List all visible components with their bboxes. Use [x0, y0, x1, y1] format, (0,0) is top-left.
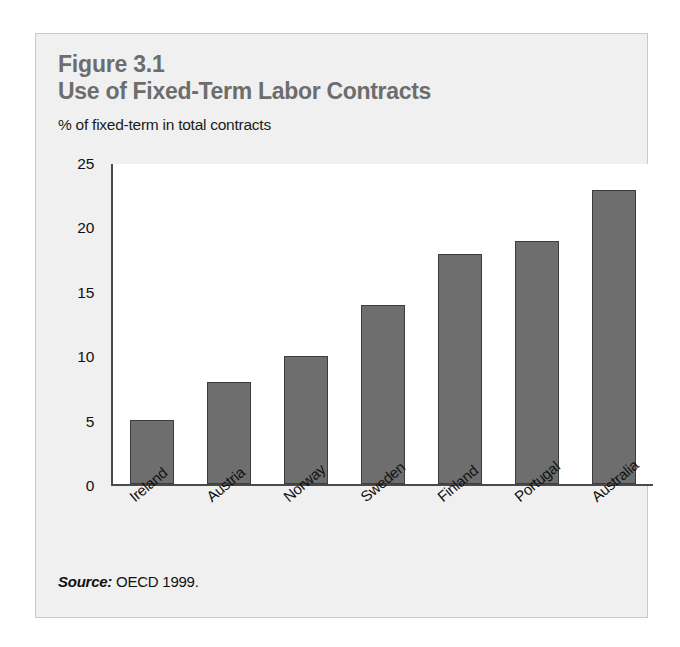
x-label-slot: Sweden [344, 488, 421, 558]
x-label-slot: Portugal [499, 488, 576, 558]
x-label-slot: Australia [576, 488, 653, 558]
figure-number: Figure 3.1 [58, 51, 618, 78]
figure-subtitle: % of fixed-term in total contracts [58, 116, 618, 134]
bar-slot [422, 164, 499, 484]
figure-header: Figure 3.1 Use of Fixed-Term Labor Contr… [58, 51, 618, 134]
x-axis: IrelandAustriaNorwaySwedenFinlandPortuga… [113, 488, 653, 558]
plot-area [111, 164, 653, 486]
source-note: Source: OECD 1999. [58, 573, 199, 590]
x-label-slot: Finland [422, 488, 499, 558]
bar-chart: 0510152025 IrelandAustriaNorwaySwedenFin… [58, 164, 628, 554]
bar-series [113, 164, 653, 484]
bar-slot [113, 164, 190, 484]
y-axis-tick-15: 15 [77, 284, 94, 302]
source-label: Source: [58, 573, 112, 590]
source-text: OECD 1999. [116, 573, 199, 590]
bar-slot [576, 164, 653, 484]
x-label-slot: Austria [190, 488, 267, 558]
bar-sweden [361, 305, 405, 484]
bar-slot [267, 164, 344, 484]
bar-australia [592, 190, 636, 484]
x-label-slot: Ireland [113, 488, 190, 558]
figure-title: Use of Fixed-Term Labor Contracts [58, 78, 618, 105]
bar-slot [499, 164, 576, 484]
y-axis-tick-25: 25 [77, 155, 94, 173]
y-axis-tick-5: 5 [86, 413, 94, 431]
bar-finland [438, 254, 482, 484]
y-axis: 0510152025 [58, 164, 100, 486]
y-axis-tick-10: 10 [77, 348, 94, 366]
bar-slot [190, 164, 267, 484]
bar-portugal [515, 241, 559, 484]
figure-panel: Figure 3.1 Use of Fixed-Term Labor Contr… [35, 33, 648, 618]
y-axis-tick-20: 20 [77, 219, 94, 237]
bar-slot [344, 164, 421, 484]
x-label-slot: Norway [267, 488, 344, 558]
y-axis-tick-0: 0 [86, 477, 94, 495]
